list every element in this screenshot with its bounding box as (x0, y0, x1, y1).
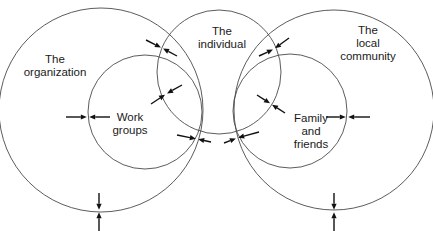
label-family-line-2: and (286, 125, 336, 138)
label-organization-line-2: organization (20, 66, 90, 79)
arrow-icon (167, 85, 182, 93)
arrow-icon (257, 95, 270, 103)
label-family: Family and friends (286, 112, 336, 151)
arrow-icon (259, 50, 273, 56)
arrow-icon (177, 135, 196, 140)
label-individual-line-1: The (192, 25, 252, 38)
label-community-line-1: The (333, 24, 403, 37)
circle-organization (0, 8, 203, 212)
label-individual-line-2: individual (192, 38, 252, 51)
label-community: The local community (333, 24, 403, 63)
arrow-icon (331, 193, 336, 210)
arrow-icon (331, 212, 336, 231)
arrow-icon (96, 193, 101, 210)
arrow-icon (198, 138, 211, 143)
arrow-icon (89, 114, 110, 119)
label-community-line-3: community (333, 50, 403, 63)
arrow-icon (96, 212, 101, 231)
arrow-icon (275, 38, 289, 48)
label-work-groups-line-2: groups (110, 124, 150, 137)
label-family-line-1: Family (286, 112, 336, 125)
label-community-line-2: local (333, 37, 403, 50)
arrow-icon (224, 138, 236, 143)
label-organization: The organization (20, 53, 90, 79)
label-individual: The individual (192, 25, 252, 51)
label-organization-line-1: The (20, 53, 90, 66)
arrow-icon (163, 49, 177, 56)
label-work-groups-line-1: Work (110, 111, 150, 124)
arrow-icon (348, 114, 370, 119)
arrow-icon (66, 114, 87, 119)
arrow-icon (146, 40, 161, 47)
label-family-line-3: friends (286, 138, 336, 151)
arrow-icon (272, 105, 285, 113)
arrow-icon (238, 132, 259, 139)
label-work-groups: Work groups (110, 111, 150, 137)
